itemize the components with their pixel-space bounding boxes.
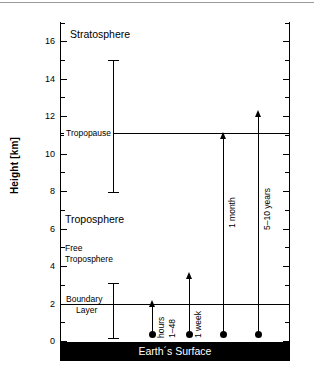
arrow-label-years: 5–10 years: [263, 188, 272, 230]
free-troposphere-label-line1: Free: [65, 243, 82, 253]
y-tick-minor-3: [61, 285, 65, 286]
y-tick-right-minor-1: [285, 322, 289, 323]
y-tick-major-6: [61, 229, 67, 230]
top-divider-rule: [0, 2, 314, 3]
y-tick-right-major-4: [283, 266, 289, 267]
y-tick-right-minor-5: [285, 247, 289, 248]
error-bar-lower-cap-bottom: [108, 338, 119, 339]
y-tick-major-10: [61, 154, 67, 155]
y-axis-title: Height [km]: [9, 121, 20, 211]
y-axis-left: [60, 22, 61, 342]
y-tick-right-minor-17: [285, 23, 289, 24]
arrow-label-month: 1 month: [228, 197, 237, 228]
error-bar-upper-cap-top: [108, 60, 119, 61]
error-bar-upper-cap-bottom: [108, 192, 119, 193]
y-tick-major-16: [61, 41, 67, 42]
arrow-shaft-hours: [152, 306, 153, 334]
y-ticklabel-6: 6: [33, 225, 55, 234]
y-ticklabel-12: 12: [33, 112, 55, 121]
arrow-base-dot-hours: [149, 331, 156, 338]
arrow-label-week: 1 week: [194, 311, 203, 338]
y-ticklabel-2: 2: [33, 300, 55, 309]
y-tick-right-major-16: [283, 41, 289, 42]
y-tick-right-minor-15: [285, 60, 289, 61]
error-bar-lower-shaft: [113, 283, 114, 338]
arrow-head-week: [186, 272, 192, 279]
y-tick-right-minor-13: [285, 97, 289, 98]
y-ticklabel-4: 4: [33, 262, 55, 271]
arrow-head-hours: [149, 300, 155, 307]
arrow-base-dot-years: [255, 331, 262, 338]
stratosphere-label: Stratosphere: [70, 28, 130, 40]
arrow-head-month: [220, 132, 226, 139]
arrow-base-dot-month: [220, 331, 227, 338]
y-ticklabel-0: 0: [33, 337, 55, 346]
y-tick-major-4: [61, 266, 67, 267]
troposphere-label: Troposphere: [65, 213, 124, 225]
tropopause-label: Tropopause: [64, 128, 113, 138]
error-bar-lower-cap-top: [108, 283, 119, 284]
y-tick-major-12: [61, 116, 67, 117]
y-tick-right-minor-3: [285, 285, 289, 286]
y-tick-minor-7: [61, 210, 65, 211]
y-tick-major-8: [61, 191, 67, 192]
y-tick-right-major-12: [283, 116, 289, 117]
y-tick-major-14: [61, 79, 67, 80]
y-tick-right-major-8: [283, 191, 289, 192]
y-tick-right-minor-11: [285, 135, 289, 136]
boundary-layer-label-line2: Layer: [74, 305, 99, 315]
y-tick-right-minor-9: [285, 172, 289, 173]
boundary-layer-label-line1: Boundary: [64, 294, 104, 304]
y-ticklabel-16: 16: [33, 37, 55, 46]
y-tick-minor-1: [61, 322, 65, 323]
arrow-head-years: [255, 110, 261, 117]
y-tick-right-major-14: [283, 79, 289, 80]
arrow-base-dot-week: [186, 331, 193, 338]
y-tick-minor-9: [61, 172, 65, 173]
y-axis-right: [289, 22, 290, 342]
arrow-label-hours-line1: 1–48: [168, 319, 177, 338]
arrow-shaft-week: [189, 278, 190, 334]
y-ticklabel-10: 10: [33, 150, 55, 159]
y-tick-minor-13: [61, 97, 65, 98]
y-tick-minor-17: [61, 23, 65, 24]
arrow-shaft-month: [223, 138, 224, 334]
y-tick-right-major-10: [283, 154, 289, 155]
y-ticklabel-8: 8: [33, 187, 55, 196]
free-troposphere-label-line2: Troposphere: [65, 254, 113, 264]
arrow-shaft-years: [258, 116, 259, 334]
earth-surface-label: Earth´s Surface: [60, 345, 290, 358]
y-tick-minor-15: [61, 60, 65, 61]
y-tick-right-minor-7: [285, 210, 289, 211]
error-bar-upper-shaft: [113, 60, 114, 192]
y-ticklabel-14: 14: [33, 75, 55, 84]
arrow-label-hours-line2: hours: [157, 317, 166, 338]
y-tick-right-major-6: [283, 229, 289, 230]
atmosphere-residence-time-figure: 0 2 4 6 8 10 12 14 16 Height [km] Strato: [0, 0, 314, 373]
